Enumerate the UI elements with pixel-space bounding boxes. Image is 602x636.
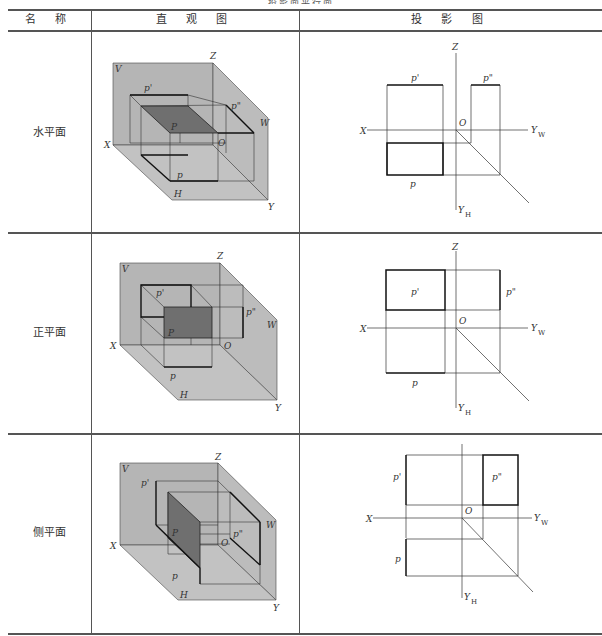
pictorial-profile-plane: V Z W X H Y O P p p' p": [100, 420, 300, 620]
label-Y: Y: [275, 403, 282, 413]
label-Y: Y: [273, 603, 280, 613]
pictorial-frontal-plane: V Z W X H Y O P p p' p": [100, 225, 300, 415]
label-W: W: [267, 320, 277, 330]
label-YH: Y: [458, 205, 465, 215]
label-p-prime: p': [144, 83, 152, 93]
label-p-double-prime: p": [246, 307, 256, 317]
label-YW-subscript: W: [541, 519, 549, 527]
table-bottom-border: [8, 633, 602, 635]
label-X: X: [103, 140, 111, 150]
label-X: X: [109, 341, 117, 351]
label-p: p: [177, 170, 183, 180]
label-Z: Z: [209, 51, 217, 61]
label-O: O: [224, 341, 232, 351]
label-YH-subscript: H: [465, 409, 471, 417]
label-W: W: [260, 118, 270, 128]
row-label-profile-plane: 侧平面: [8, 523, 91, 539]
label-p-double-prime: p": [506, 287, 516, 297]
label-Z: Z: [214, 452, 222, 462]
label-O: O: [221, 538, 229, 548]
label-YH: Y: [464, 592, 471, 602]
label-YW: Y: [531, 323, 538, 333]
label-YW-subscript: W: [538, 329, 546, 337]
label-p: p: [172, 571, 178, 581]
label-YW: Y: [531, 125, 538, 135]
label-X: X: [359, 324, 367, 334]
column-divider-1: [91, 10, 92, 634]
header-bottom-border: [8, 30, 602, 32]
label-O: O: [218, 138, 226, 148]
label-X: X: [359, 126, 367, 136]
label-p-double-prime: p": [233, 529, 243, 539]
projection-profile-plane: X O Y W Y H p p' p": [300, 420, 602, 630]
header-pictorial: 直 观 图: [92, 10, 299, 30]
label-Z: Z: [451, 242, 459, 252]
label-YH: Y: [458, 403, 465, 413]
label-H: H: [173, 189, 182, 199]
label-p: p: [412, 378, 418, 388]
label-P: P: [170, 122, 178, 132]
label-P: P: [167, 328, 175, 338]
label-p-prime: p': [141, 478, 149, 488]
projection-frontal-plane: Z X O Y W Y H p p' p": [300, 225, 602, 425]
pictorial-horizontal-plane: V Z W X H Y O P p p' p": [100, 35, 300, 225]
label-Y: Y: [268, 202, 275, 212]
label-O: O: [459, 316, 467, 326]
label-p-double-prime: p": [492, 472, 502, 482]
label-X: X: [109, 541, 117, 551]
label-YW-subscript: W: [538, 131, 546, 139]
label-O: O: [465, 506, 473, 516]
label-p: p: [395, 554, 401, 564]
label-H: H: [179, 590, 188, 600]
row-label-frontal-plane: 正平面: [8, 323, 91, 339]
label-p-prime: p': [411, 287, 419, 297]
header-name: 名 称: [8, 10, 91, 30]
label-YH-subscript: H: [471, 598, 477, 606]
label-p-double-prime: p": [483, 73, 493, 83]
label-W: W: [266, 520, 276, 530]
label-H: H: [179, 390, 188, 400]
label-O: O: [459, 118, 467, 128]
label-YW: Y: [534, 513, 541, 523]
label-p-prime: p': [156, 288, 164, 298]
label-p-prime: p': [393, 472, 401, 482]
table-caption: 投影面平行面: [0, 0, 602, 4]
projection-horizontal-plane: Z X O Y W Y H p p' p": [300, 35, 602, 225]
label-Z: Z: [216, 251, 224, 261]
label-X: X: [365, 514, 373, 524]
label-p-prime: p': [411, 73, 419, 83]
label-P: P: [171, 528, 179, 538]
label-YH-subscript: H: [465, 211, 471, 219]
label-p: p: [410, 179, 416, 189]
label-p-double-prime: p": [231, 101, 241, 111]
label-Z: Z: [451, 42, 459, 52]
label-p: p: [170, 371, 176, 381]
header-projection: 投 影 图: [300, 10, 602, 30]
row-label-horizontal-plane: 水平面: [8, 123, 91, 139]
